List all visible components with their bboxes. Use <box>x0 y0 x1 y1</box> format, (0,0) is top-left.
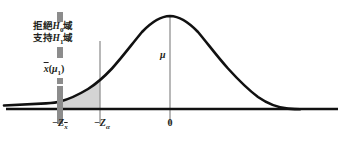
axis-tick-label-z-alpha: −Zα <box>78 118 126 131</box>
paren-close: ) <box>61 63 64 74</box>
region-suffix-2: 域 <box>63 33 73 43</box>
region-suffix-1: 域 <box>63 21 73 31</box>
population-mean-label: μ <box>160 50 166 61</box>
rejection-region-label: 拒絕H0域 支持H1域 <box>20 22 86 46</box>
statistics-figure: 拒絕H0域 支持H1域 x(μ1) μ −Zx −Zα 0 <box>0 0 342 141</box>
axis-tick-label-z-xbar: −Zx <box>36 118 84 131</box>
z-subscript-alpha: α <box>106 123 110 131</box>
support-h1-text: 支持 <box>33 33 53 43</box>
rejection-region-line-2: 支持H1域 <box>20 34 86 46</box>
h1-symbol: H <box>53 33 60 43</box>
h0-symbol: H <box>53 21 60 31</box>
reject-h0-text: 拒絕 <box>33 21 53 31</box>
sample-mean-label: x(μ1) <box>24 64 84 77</box>
axis-tick-label-zero: 0 <box>152 118 188 129</box>
z-subscript-xbar: x <box>64 123 68 131</box>
